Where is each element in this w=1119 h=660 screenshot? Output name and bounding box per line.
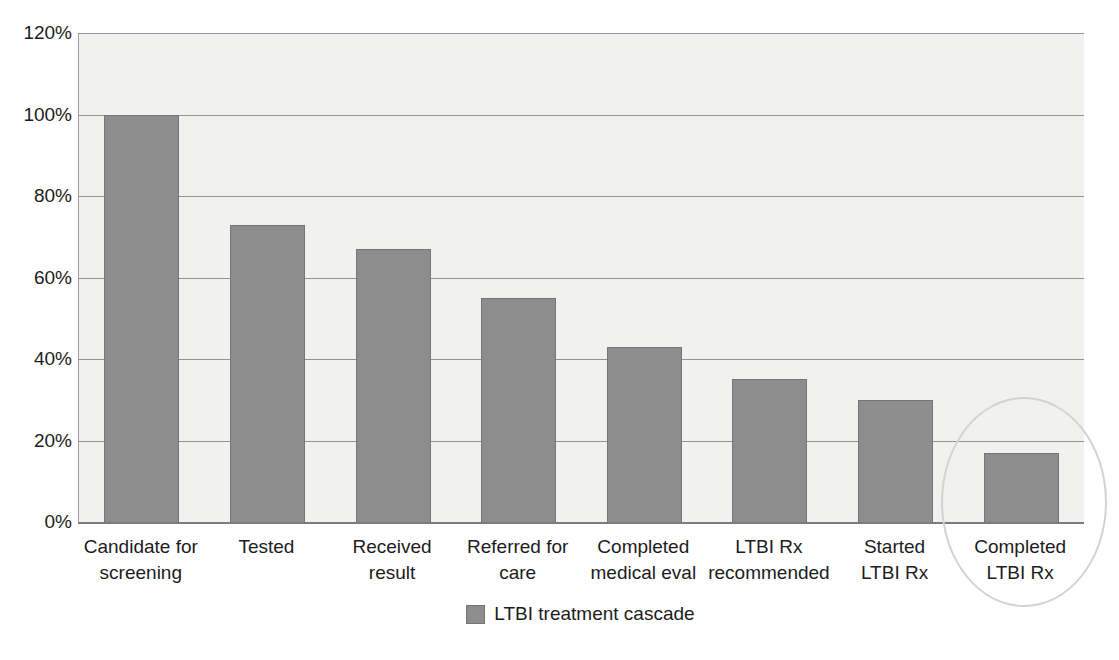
x-axis-category-label: Receivedresult	[329, 534, 455, 586]
y-axis-tick-label: 80%	[0, 183, 72, 209]
bar-column	[205, 33, 331, 522]
y-axis-tick-label: 20%	[0, 428, 72, 454]
x-axis-category-label: Tested	[204, 534, 330, 586]
bar-6	[858, 400, 933, 522]
x-axis-category-label: StartedLTBI Rx	[832, 534, 958, 586]
bar-column	[330, 33, 456, 522]
legend-swatch-icon	[466, 605, 485, 624]
bar-column	[79, 33, 205, 522]
y-axis-tick-label: 120%	[0, 20, 72, 46]
bar-column	[833, 33, 959, 522]
x-axis-labels: Candidate forscreeningTestedReceivedresu…	[78, 534, 1083, 586]
y-axis-tick-label: 60%	[0, 265, 72, 291]
bar-4	[607, 347, 682, 522]
bar-5	[732, 379, 807, 522]
bar-7	[984, 453, 1059, 522]
bar-2	[356, 249, 431, 522]
bar-0	[104, 115, 179, 523]
legend: LTBI treatment cascade	[78, 601, 1083, 627]
bars-container	[79, 33, 1084, 522]
y-axis-tick-label: 100%	[0, 102, 72, 128]
x-axis-category-label: Candidate forscreening	[78, 534, 204, 586]
y-axis-tick-label: 0%	[0, 509, 72, 535]
x-axis-category-label: CompletedLTBI Rx	[957, 534, 1083, 586]
plot-area	[78, 33, 1084, 522]
bar-column	[582, 33, 708, 522]
bar-3	[481, 298, 556, 522]
x-axis-category-label: Completedmedical eval	[581, 534, 707, 586]
bar-1	[230, 225, 305, 522]
bar-column	[456, 33, 582, 522]
y-axis-tick-label: 40%	[0, 346, 72, 372]
bar-column	[707, 33, 833, 522]
ltbi-cascade-figure: 120%100%80%60%40%20%0% Candidate forscre…	[0, 0, 1119, 660]
x-axis-category-label: Referred forcare	[455, 534, 581, 586]
bar-column	[958, 33, 1084, 522]
x-axis-line	[78, 522, 1084, 524]
legend-label: LTBI treatment cascade	[494, 601, 694, 627]
x-axis-category-label: LTBI Rxrecommended	[706, 534, 832, 586]
